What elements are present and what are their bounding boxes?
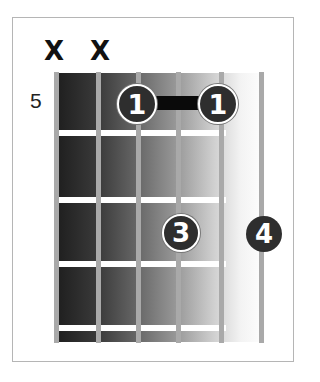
string-6 [54, 72, 59, 343]
finger-dot-string1: 4 [246, 216, 282, 252]
barre-bar [152, 96, 204, 110]
finger-dot-string4: 1 [117, 84, 157, 124]
fret-line-1 [56, 130, 226, 136]
string-1 [259, 72, 264, 343]
finger-dot-string2: 1 [198, 84, 238, 124]
finger-dot-string3: 3 [162, 214, 200, 252]
muted-string-6-marker: X [42, 38, 66, 64]
fret-line-2 [56, 197, 226, 203]
string-5 [96, 72, 101, 343]
string-3 [176, 72, 181, 343]
starting-fret-number: 5 [30, 90, 42, 112]
fret-line-4 [56, 325, 226, 331]
muted-string-5-marker: X [88, 38, 112, 64]
fret-line-3 [56, 261, 226, 267]
